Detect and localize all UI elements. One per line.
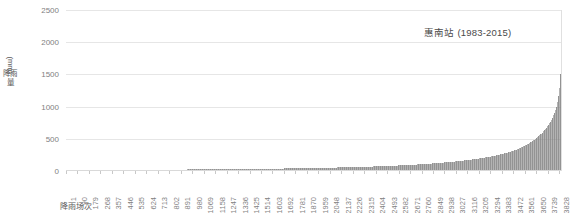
x-axis-tick-label: 3205 bbox=[482, 197, 490, 213]
x-axis-tick-label: 2137 bbox=[345, 197, 353, 213]
x-axis-tick bbox=[238, 171, 239, 174]
x-axis-tick bbox=[284, 171, 285, 174]
x-axis-tick-label: 713 bbox=[161, 197, 169, 210]
x-axis-tick-label: 2938 bbox=[448, 197, 456, 213]
x-axis-tick-label: 1158 bbox=[219, 197, 227, 213]
x-axis-tick-label: 3739 bbox=[551, 197, 559, 213]
x-axis-tick bbox=[192, 171, 193, 174]
x-axis-tick bbox=[490, 171, 491, 174]
x-axis-tick-label: 1425 bbox=[253, 197, 261, 213]
x-axis-tick bbox=[215, 171, 216, 174]
x-axis-tick bbox=[467, 171, 468, 174]
x-axis-tick-label: 2671 bbox=[414, 197, 422, 213]
x-axis-tick bbox=[330, 171, 331, 174]
x-axis-tick-labels: 1901792683574465356247138028919801069115… bbox=[66, 175, 562, 201]
x-axis-tick bbox=[204, 171, 205, 174]
x-axis-tick bbox=[536, 171, 537, 174]
x-axis-tick-label: 357 bbox=[115, 197, 123, 210]
x-axis-tick bbox=[272, 171, 273, 174]
y-axis-tick-label: 1000 bbox=[41, 102, 59, 111]
x-axis-tick-label: 891 bbox=[184, 197, 192, 210]
y-axis-tick-label: 2000 bbox=[41, 38, 59, 47]
x-axis-tick-label: 1870 bbox=[310, 197, 318, 213]
x-axis-tick bbox=[100, 171, 101, 174]
x-axis-tick bbox=[318, 171, 319, 174]
x-axis-tick bbox=[364, 171, 365, 174]
x-axis-tick-label: 2048 bbox=[333, 197, 341, 213]
x-axis-tick bbox=[444, 171, 445, 174]
x-axis-tick-label: 1336 bbox=[242, 197, 250, 213]
x-axis-tick-label: 1959 bbox=[322, 197, 330, 213]
x-axis-tick bbox=[135, 171, 136, 174]
x-axis-tick bbox=[410, 171, 411, 174]
x-axis-tick-label: 1781 bbox=[299, 197, 307, 213]
x-axis-tick-label: 1514 bbox=[264, 197, 272, 213]
x-axis-tick-label: 624 bbox=[150, 197, 158, 210]
x-axis-tick-label: 802 bbox=[173, 197, 181, 210]
x-axis-tick bbox=[376, 171, 377, 174]
x-axis-tick bbox=[89, 171, 90, 174]
x-axis-tick bbox=[548, 171, 549, 174]
x-axis-tick bbox=[502, 171, 503, 174]
y-axis-unit: (mm) bbox=[6, 57, 15, 73]
x-axis-tick bbox=[146, 171, 147, 174]
x-axis-tick bbox=[479, 171, 480, 174]
x-axis-title: 降雨场次 bbox=[60, 200, 92, 211]
x-axis-tick-label: 3650 bbox=[540, 197, 548, 213]
x-axis-tick bbox=[353, 171, 354, 174]
x-axis-tick-label: 1692 bbox=[287, 197, 295, 213]
x-axis-tick bbox=[261, 171, 262, 174]
x-axis-tick-label: 2582 bbox=[402, 197, 410, 213]
y-axis-tick-label: 1500 bbox=[41, 70, 59, 79]
x-axis-tick-label: 535 bbox=[138, 197, 146, 210]
x-axis-tick bbox=[250, 171, 251, 174]
x-axis-tick-label: 1247 bbox=[230, 197, 238, 213]
x-axis-tick bbox=[227, 171, 228, 174]
x-axis-tick-label: 268 bbox=[104, 197, 112, 210]
x-axis-tick bbox=[295, 171, 296, 174]
x-axis-tick bbox=[169, 171, 170, 174]
x-axis-tick bbox=[399, 171, 400, 174]
x-axis-tick bbox=[559, 171, 560, 174]
x-axis-tick bbox=[387, 171, 388, 174]
y-axis-title: (mm) 降雨量 bbox=[2, 60, 18, 87]
x-axis-tick-label: 2493 bbox=[391, 197, 399, 213]
x-axis-tick bbox=[123, 171, 124, 174]
chart-title: 惠南站 (1983-2015) bbox=[424, 25, 511, 39]
x-axis-tick-label: 2226 bbox=[356, 197, 364, 213]
x-axis-tick-label: 980 bbox=[196, 197, 204, 210]
rainfall-rank-chart: (mm) 降雨量 05001000150020002500 惠南站 (1983-… bbox=[0, 0, 588, 213]
x-axis-tick-label: 3828 bbox=[563, 197, 571, 213]
x-axis-tick bbox=[525, 171, 526, 174]
x-axis-tick-label: 2849 bbox=[437, 197, 445, 213]
x-axis-tick bbox=[456, 171, 457, 174]
x-axis-tick-label: 3383 bbox=[505, 197, 513, 213]
x-axis-tick bbox=[422, 171, 423, 174]
x-axis-tick-label: 3472 bbox=[517, 197, 525, 213]
x-axis-tick-label: 3027 bbox=[459, 197, 467, 213]
x-axis-tick-label: 2315 bbox=[368, 197, 376, 213]
x-axis-tick-label: 179 bbox=[92, 197, 100, 210]
y-axis-tick-label: 0 bbox=[55, 167, 59, 176]
y-axis-tick-labels: 05001000150020002500 bbox=[18, 0, 62, 175]
x-axis-tick-label: 3116 bbox=[471, 197, 479, 213]
x-axis-tick bbox=[158, 171, 159, 174]
x-axis-tick-label: 2404 bbox=[379, 197, 387, 213]
x-axis-tick bbox=[433, 171, 434, 174]
x-axis-tick-label: 2760 bbox=[425, 197, 433, 213]
y-axis-tick-label: 500 bbox=[46, 134, 59, 143]
x-axis-tick-label: 1069 bbox=[207, 197, 215, 213]
x-axis-tick-label: 1603 bbox=[276, 197, 284, 213]
y-axis-tick-label: 2500 bbox=[41, 6, 59, 15]
x-axis-tick bbox=[181, 171, 182, 174]
plot-right-border bbox=[561, 10, 562, 171]
x-axis-tick-label: 3294 bbox=[494, 197, 502, 213]
x-axis-tick bbox=[77, 171, 78, 174]
x-axis-tick-label: 446 bbox=[127, 197, 135, 210]
x-axis-tick bbox=[513, 171, 514, 174]
x-axis-tick bbox=[307, 171, 308, 174]
x-axis-tick-label: 3561 bbox=[528, 197, 536, 213]
x-axis-tick bbox=[66, 171, 67, 174]
x-axis-tick bbox=[341, 171, 342, 174]
x-axis-tick bbox=[112, 171, 113, 174]
